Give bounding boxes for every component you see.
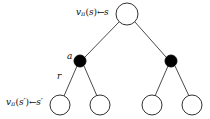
node-group xyxy=(50,3,202,115)
state-node-leaf-2 xyxy=(90,95,110,115)
root-value-label: vπ(s)←s xyxy=(76,8,109,18)
state-node-root xyxy=(116,3,138,25)
edge-action-right-to-leaf-4 xyxy=(175,66,189,96)
reward-label: r xyxy=(57,72,61,81)
action-node-right xyxy=(165,55,177,67)
leaf-value-source: s′ xyxy=(36,97,43,107)
leaf-value-label: vπ(s′)←s′ xyxy=(6,98,43,108)
edge-action-left-to-leaf-2 xyxy=(84,66,97,96)
edge-root-to-action-left xyxy=(85,22,119,57)
action-node-left xyxy=(74,55,86,67)
edge-action-right-to-leaf-3 xyxy=(155,66,168,96)
state-node-leaf-3 xyxy=(142,95,162,115)
root-value-source: s xyxy=(104,7,109,17)
state-node-leaf-1 xyxy=(50,95,70,115)
action-label: a xyxy=(67,52,72,61)
edge-root-to-action-right xyxy=(135,22,166,57)
backup-diagram-canvas: vπ(s)←s vπ(s′)←s′ a r xyxy=(0,0,210,119)
edge-action-left-to-leaf-1 xyxy=(64,66,77,96)
leaf-value-argument: s′ xyxy=(19,97,26,107)
state-node-leaf-4 xyxy=(182,95,202,115)
